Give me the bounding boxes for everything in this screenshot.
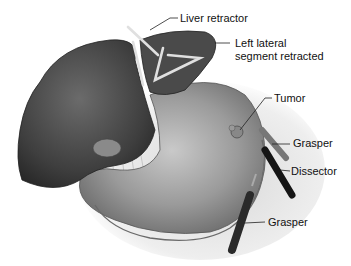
label-left-lateral-segment-line1: Left lateral — [235, 37, 286, 49]
label-tumor: Tumor — [274, 92, 305, 104]
caudate-lobe — [93, 139, 121, 157]
label-liver-retractor: Liver retractor — [180, 12, 248, 24]
label-grasper-top: Grasper — [293, 137, 333, 149]
label-left-lateral-segment-line2: segment retracted — [235, 50, 324, 62]
label-grasper-bottom: Grasper — [268, 216, 308, 228]
label-dissector: Dissector — [291, 165, 337, 177]
